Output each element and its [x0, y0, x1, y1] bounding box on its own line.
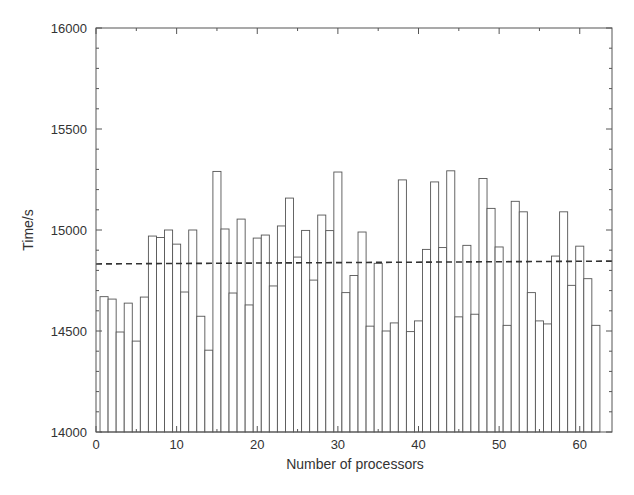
bar — [423, 249, 431, 432]
bar — [527, 293, 535, 432]
bar — [294, 257, 302, 432]
bar — [189, 230, 197, 432]
bar — [205, 350, 213, 432]
bar — [503, 325, 511, 432]
bar — [398, 180, 406, 432]
bar — [511, 201, 519, 432]
bars-group — [100, 171, 600, 432]
bar — [382, 331, 390, 432]
bar — [495, 247, 503, 432]
bar — [245, 305, 253, 432]
x-tick-label: 60 — [573, 437, 587, 452]
bar — [552, 256, 560, 432]
x-tick-label: 30 — [331, 437, 345, 452]
bar — [277, 226, 285, 432]
bar — [302, 230, 310, 432]
bar — [463, 245, 471, 432]
bar — [318, 215, 326, 432]
y-tick-labels: 1400014500150001550016000 — [51, 21, 87, 440]
bar — [576, 246, 584, 432]
bar — [479, 178, 487, 432]
bar — [439, 248, 447, 432]
bar — [197, 316, 205, 432]
x-tick-label: 50 — [492, 437, 506, 452]
y-tick-label: 15500 — [51, 122, 87, 137]
bar — [342, 293, 350, 432]
y-tick-label: 14000 — [51, 425, 87, 440]
x-tick-label: 40 — [411, 437, 425, 452]
bar — [269, 286, 277, 432]
bar — [285, 198, 293, 432]
bar — [181, 292, 189, 432]
bar — [519, 212, 527, 432]
bar — [237, 219, 245, 432]
bar — [414, 321, 422, 432]
y-tick-label: 14500 — [51, 324, 87, 339]
bar — [108, 299, 116, 432]
y-tick-label: 16000 — [51, 21, 87, 36]
bar-chart: 0102030405060 1400014500150001550016000 … — [0, 0, 634, 495]
y-tick-label: 15000 — [51, 223, 87, 238]
bar — [535, 321, 543, 432]
bar — [592, 325, 600, 432]
bar — [455, 317, 463, 432]
bar — [487, 208, 495, 432]
bar — [374, 263, 382, 432]
bar — [334, 172, 342, 432]
bar — [229, 293, 237, 432]
bar — [100, 297, 108, 432]
bar — [310, 280, 318, 432]
bar — [350, 275, 358, 432]
x-tick-labels: 0102030405060 — [92, 437, 587, 452]
bar — [406, 332, 414, 432]
x-tick-label: 10 — [169, 437, 183, 452]
bar — [221, 229, 229, 432]
bar — [165, 230, 173, 432]
bar — [366, 326, 374, 432]
x-axis-label: Number of processors — [286, 456, 424, 472]
bar — [213, 171, 221, 432]
bar — [390, 323, 398, 432]
bar — [173, 244, 181, 432]
y-axis-label: Time/s — [20, 209, 36, 250]
x-tick-label: 0 — [92, 437, 99, 452]
bar — [471, 314, 479, 432]
bar — [253, 238, 261, 432]
bar — [584, 279, 592, 432]
bar — [261, 235, 269, 432]
bar — [124, 303, 132, 432]
bar — [447, 171, 455, 432]
bar — [156, 237, 164, 432]
bar — [140, 297, 148, 432]
bar — [116, 332, 124, 432]
bar — [132, 341, 140, 432]
bar — [148, 236, 156, 432]
bar — [568, 285, 576, 432]
bar — [326, 231, 334, 432]
bar — [543, 324, 551, 432]
bar — [431, 182, 439, 432]
x-tick-label: 20 — [250, 437, 264, 452]
bar — [560, 212, 568, 432]
